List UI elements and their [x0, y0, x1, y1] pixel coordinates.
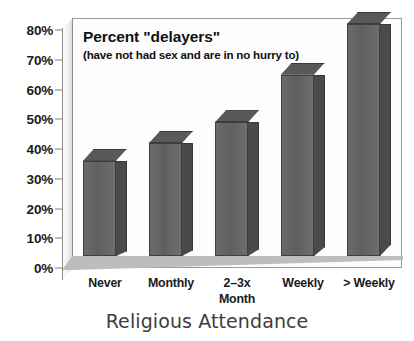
bar-slot [336, 6, 402, 256]
x-label-line: Monthly [138, 276, 204, 292]
bar-top-face [347, 12, 391, 24]
y-tick-label: 30% [27, 171, 53, 186]
chart-title: Percent "delayers" [83, 28, 343, 46]
bar-side-face [314, 75, 325, 256]
y-tick-mark [55, 268, 62, 269]
y-tick-label: 10% [27, 231, 53, 246]
y-tick-mark [55, 119, 62, 120]
bar-monthly [149, 143, 182, 256]
chart-subtitle: (have not had sex and are in no hurry to… [83, 48, 343, 61]
bar-side-face [380, 24, 391, 256]
y-tick-mark [55, 178, 62, 179]
chart-screenshot: 0%10%20%30%40%50%60%70%80% Percent "dela… [0, 0, 414, 341]
bar-side-face [182, 143, 193, 256]
bar-side-face [248, 122, 259, 256]
bar-weekly [281, 75, 314, 256]
bar-front-face [83, 161, 116, 256]
x-label-line: > Weekly [336, 276, 402, 292]
x-label-monthly: Monthly [138, 276, 204, 292]
y-tick-mark [55, 89, 62, 90]
x-label-weekly: > Weekly [336, 276, 402, 292]
y-tick-label: 40% [27, 142, 53, 157]
y-tick-mark [55, 238, 62, 239]
bar-front-face [347, 24, 380, 256]
x-label-weekly: Weekly [270, 276, 336, 292]
bar-front-face [215, 122, 248, 256]
bar-never [83, 161, 116, 256]
bar-top-face [215, 110, 259, 122]
y-tick-label: 0% [34, 261, 53, 276]
bar-top-face [149, 131, 193, 143]
y-tick-mark [55, 59, 62, 60]
x-label-2-3x-month: 2–3xMonth [204, 276, 270, 307]
y-tick-mark [55, 208, 62, 209]
y-tick-mark [55, 30, 62, 31]
bar-side-face [116, 161, 127, 256]
x-label-line: 2–3x [204, 276, 270, 292]
x-label-line: Weekly [270, 276, 336, 292]
x-label-line: Month [204, 292, 270, 308]
bar-top-face [83, 149, 127, 161]
bar-weekly [347, 24, 380, 256]
bar-front-face [149, 143, 182, 256]
y-tick-label: 80% [27, 23, 53, 38]
bar-top-face [281, 63, 325, 75]
y-tick-label: 60% [27, 82, 53, 97]
y-tick-label: 50% [27, 112, 53, 127]
x-label-never: Never [72, 276, 138, 292]
y-tick-label: 20% [27, 201, 53, 216]
bar-front-face [281, 75, 314, 256]
bar-2-3x-month [215, 122, 248, 256]
x-axis-title: Religious Attendance [0, 310, 414, 332]
y-tick-mark [55, 149, 62, 150]
y-tick-label: 70% [27, 52, 53, 67]
y-axis-line [62, 28, 63, 280]
x-axis-labels: NeverMonthly2–3xMonthWeekly> Weekly [72, 276, 402, 314]
chart-title-block: Percent "delayers" (have not had sex and… [83, 28, 343, 61]
x-label-line: Never [72, 276, 138, 292]
